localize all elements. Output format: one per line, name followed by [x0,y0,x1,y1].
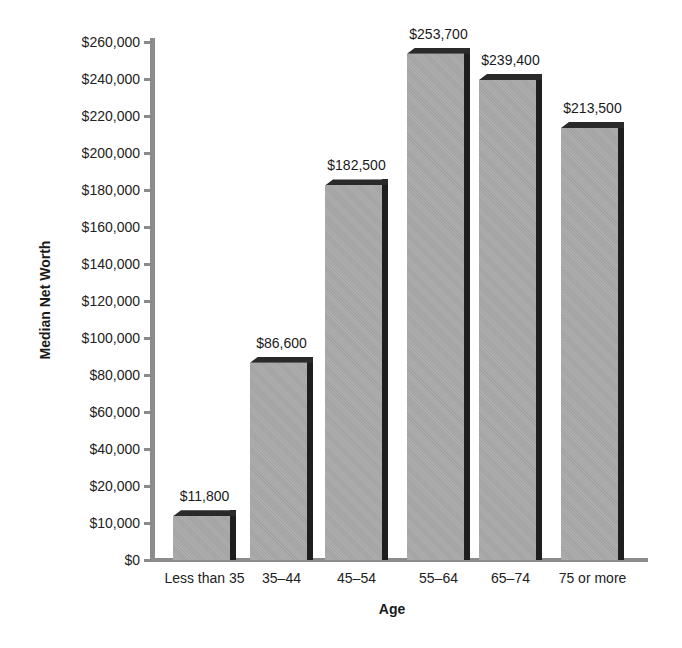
y-tick-label: $200,000 [82,145,140,161]
bar-face [173,516,230,560]
y-tick-mark [144,226,152,229]
y-tick-mark [144,374,152,377]
bar-side [307,357,313,560]
bar [407,48,470,560]
bar-face [561,128,618,560]
y-tick-label: $40,000 [89,441,140,457]
y-axis-title: Median Net Worth [37,241,53,360]
y-tick-label: $120,000 [82,293,140,309]
y-tick-label: $20,000 [89,478,140,494]
bar-side [536,74,542,560]
y-tick-label: $60,000 [89,404,140,420]
y-tick-mark [144,41,152,44]
y-tick-mark [144,189,152,192]
bar [561,122,624,560]
bar-top [250,357,313,363]
y-tick-mark [144,485,152,488]
bar-value-label: $86,600 [232,335,332,351]
bar-top [173,510,236,516]
bar-side [382,179,388,560]
bar-top [479,74,542,80]
y-tick-mark [144,78,152,81]
y-tick-label: $240,000 [82,71,140,87]
y-tick-mark [144,300,152,303]
bar-side [618,122,624,560]
y-tick-mark [144,559,152,562]
bar-value-label: $11,800 [155,488,255,504]
bar [250,357,313,560]
y-tick-mark [144,337,152,340]
x-axis-title: Age [362,601,422,617]
y-tick-label: $260,000 [82,34,140,50]
bar-value-label: $182,500 [307,157,407,173]
bar-side [230,510,236,560]
y-tick-mark [144,522,152,525]
y-tick-label: $220,000 [82,108,140,124]
bar-value-label: $239,400 [461,52,561,68]
bar-face [250,363,307,560]
y-tick-mark [144,115,152,118]
y-tick-label: $160,000 [82,219,140,235]
x-category-label: 75 or more [538,570,648,586]
bar-top [561,122,624,128]
y-tick-mark [144,448,152,451]
bar-side [464,48,470,560]
bar [325,179,388,560]
y-tick-label: $180,000 [82,182,140,198]
bar-face [479,80,536,560]
bar-value-label: $253,700 [389,26,489,42]
bar [479,74,542,560]
bar-chart: Median Net Worth $0$10,000$20,000$40,000… [0,0,682,648]
bar-value-label: $213,500 [543,100,643,116]
y-tick-label: $0 [124,552,140,568]
bar-top [325,179,388,185]
bar-face [325,185,382,560]
y-tick-mark [144,411,152,414]
y-tick-label: $140,000 [82,256,140,272]
bar [173,510,236,560]
y-tick-mark [144,263,152,266]
y-tick-label: $10,000 [89,515,140,531]
y-tick-label: $100,000 [82,330,140,346]
y-tick-label: $80,000 [89,367,140,383]
bar-face [407,54,464,560]
y-tick-mark [144,152,152,155]
